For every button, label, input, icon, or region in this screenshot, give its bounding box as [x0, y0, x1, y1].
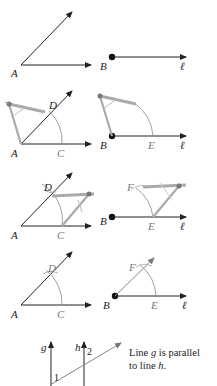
label-a: A	[10, 229, 18, 241]
step3-right: B E ℓ F	[100, 181, 186, 232]
construction-diagram: A B ℓ A C D B E ℓ	[0, 0, 217, 386]
step3-left: A C D	[10, 173, 94, 241]
compass-icon	[52, 192, 94, 227]
compass-icon	[5, 102, 45, 145]
label-a: A	[10, 67, 18, 79]
arc-e	[134, 103, 153, 136]
transversal	[50, 343, 121, 385]
label-f: F	[128, 261, 136, 273]
label-g: g	[41, 341, 47, 353]
label-d: D	[47, 262, 56, 274]
label-ell: ℓ	[180, 139, 185, 151]
angle-2-label: 2	[87, 346, 92, 357]
label-b: B	[100, 60, 107, 72]
arc-cd	[49, 111, 62, 144]
label-b: B	[100, 139, 107, 151]
step2-right: B E ℓ	[98, 94, 187, 152]
angle-1-label: 1	[54, 372, 59, 383]
label-e: E	[147, 220, 155, 232]
parallel-lines-figure: g h 1 2	[41, 341, 121, 386]
label-a: A	[10, 308, 18, 320]
label-b: B	[103, 299, 110, 311]
step1-line-ell: B ℓ	[100, 54, 186, 72]
parallel-caption: Line g is parallel to line h.	[129, 346, 217, 372]
label-h: h	[75, 341, 81, 353]
step4-left: A C D	[10, 252, 91, 320]
compass-icon	[98, 94, 137, 137]
label-d: D	[48, 99, 57, 111]
step2-left: A C D	[5, 91, 91, 159]
label-b: B	[100, 215, 107, 227]
label-ell: ℓ	[182, 299, 187, 311]
label-ell: ℓ	[180, 220, 185, 232]
label-d: D	[43, 181, 52, 193]
label-c: C	[57, 147, 65, 159]
label-f: F	[126, 181, 134, 193]
label-e: E	[147, 139, 155, 151]
label-a: A	[10, 147, 18, 159]
label-c: C	[57, 229, 65, 241]
step1-angle-a: A	[10, 12, 91, 79]
label-ell: ℓ	[180, 60, 185, 72]
compass-icon	[143, 183, 186, 217]
label-e: E	[150, 299, 158, 311]
label-c: C	[57, 308, 65, 320]
step4-right: B E ℓ F	[103, 258, 187, 311]
